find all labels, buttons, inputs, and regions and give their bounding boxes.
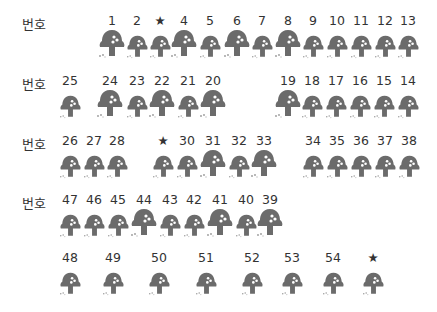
- mushroom-icon: [107, 213, 130, 239]
- number-label: 39: [255, 193, 285, 207]
- mushroom-cell: 28: [102, 134, 132, 180]
- mushroom-icon: [195, 271, 218, 297]
- mushroom-icon: [250, 148, 278, 180]
- mushroom-icon: [148, 271, 171, 297]
- mushroom-cell: 52: [237, 251, 267, 297]
- mushroom-icon: [228, 154, 251, 180]
- mushroom-icon: [106, 154, 129, 180]
- mushroom-cell: ★: [358, 251, 388, 297]
- mushroom-icon: [281, 271, 304, 297]
- mushroom-icon: [206, 207, 234, 239]
- mushroom-icon: [176, 154, 199, 180]
- mushroom-icon: [199, 88, 227, 120]
- mushroom-cell: 24: [95, 74, 125, 120]
- mushroom-cell: 38: [394, 134, 424, 180]
- mushroom-cell: 54: [318, 251, 348, 297]
- mushroom-icon: [177, 94, 200, 120]
- mushroom-icon: [398, 154, 421, 180]
- mushroom-icon: [362, 271, 385, 297]
- mushroom-icon: [397, 94, 420, 120]
- number-label: 52: [237, 251, 267, 265]
- number-label: 20: [198, 74, 228, 88]
- star-icon: ★: [358, 251, 388, 265]
- mushroom-cell: 20: [198, 74, 228, 120]
- number-label: 28: [102, 134, 132, 148]
- mushroom-cell: 50: [144, 251, 174, 297]
- mushroom-icon: [322, 271, 345, 297]
- mushroom-icon: [256, 207, 284, 239]
- row-label: 번호: [22, 193, 46, 212]
- number-label: 54: [318, 251, 348, 265]
- mushroom-cell: 51: [191, 251, 221, 297]
- mushroom-icon: [397, 34, 420, 60]
- mushroom-cell: 53: [277, 251, 307, 297]
- mushroom-icon: [59, 94, 82, 120]
- number-label: 38: [394, 134, 424, 148]
- number-label: 5: [195, 14, 225, 28]
- mushroom-cell: 5: [195, 14, 225, 60]
- mushroom-icon: [96, 88, 124, 120]
- mushroom-icon: [251, 34, 274, 60]
- mushroom-icon: [59, 271, 82, 297]
- number-label: 14: [393, 74, 423, 88]
- number-label: 25: [55, 74, 85, 88]
- row-label: 번호: [22, 14, 46, 33]
- row-label: 번호: [22, 74, 46, 93]
- mushroom-icon: [148, 88, 176, 120]
- mushroom-cell: 14: [393, 74, 423, 120]
- mushroom-icon: [241, 271, 264, 297]
- mushroom-cell: 39: [255, 193, 285, 239]
- mushroom-icon: [199, 148, 227, 180]
- number-label: 24: [95, 74, 125, 88]
- number-label: 13: [393, 14, 423, 28]
- number-label: 33: [249, 134, 279, 148]
- mushroom-icon: [130, 207, 158, 239]
- mushroom-icon: [170, 28, 198, 60]
- mushroom-icon: [102, 271, 125, 297]
- number-label: 53: [277, 251, 307, 265]
- mushroom-cell: 33: [249, 134, 279, 180]
- number-label: 50: [144, 251, 174, 265]
- mushroom-icon: [199, 34, 222, 60]
- row-label: 번호: [22, 134, 46, 153]
- mushroom-cell: 49: [98, 251, 128, 297]
- mushroom-cell: 48: [55, 251, 85, 297]
- mushroom-cell: 25: [55, 74, 85, 120]
- mushroom-cell: 13: [393, 14, 423, 60]
- number-label: 48: [55, 251, 85, 265]
- mushroom-icon: [126, 94, 149, 120]
- mushroom-icon: [183, 213, 206, 239]
- number-label: 49: [98, 251, 128, 265]
- number-label: 51: [191, 251, 221, 265]
